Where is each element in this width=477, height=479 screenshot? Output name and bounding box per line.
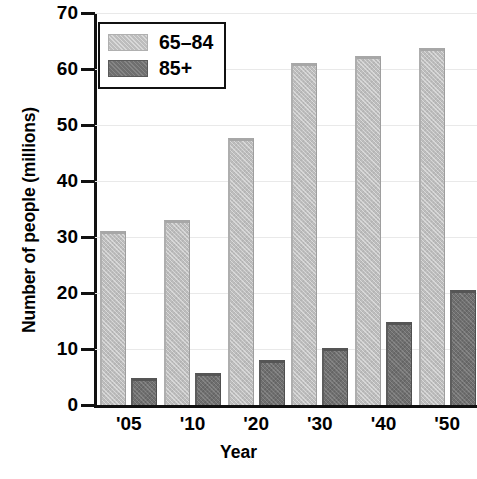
x-tick-label: '10 [180,413,206,435]
x-tick-label: '50 [434,413,460,435]
legend-item-85-plus: 85+ [108,57,213,80]
y-tick-mark [81,180,95,183]
bar-50-series-2 [450,290,476,405]
y-tick-mark [81,236,95,239]
y-tick-label: 10 [57,338,78,360]
bar-10-series-1 [164,220,190,405]
bar-40-series-2 [386,322,412,405]
x-tick-label: '30 [307,413,333,435]
bar-20-series-2 [259,360,285,405]
y-tick-label: 30 [57,226,78,248]
x-axis-line [94,405,477,408]
y-tick-label: 40 [57,170,78,192]
y-tick-label: 70 [57,2,78,24]
bar-30-series-1 [291,63,317,405]
legend-item-65-84: 65–84 [108,31,213,54]
bar-20-series-1 [228,138,254,405]
y-tick-mark [81,68,95,71]
y-tick-mark [81,348,95,351]
x-axis-title: Year [0,442,477,463]
y-tick-mark [81,124,95,127]
bar-10-series-2 [195,373,221,405]
legend-swatch-65-84 [108,34,148,51]
legend: 65–84 85+ [98,22,226,89]
legend-swatch-85-plus [108,60,148,77]
x-tick-label: '05 [116,413,142,435]
bar-30-series-2 [322,348,348,405]
y-tick-mark [81,12,95,15]
legend-label-65-84: 65–84 [159,33,213,53]
y-tick-label: 50 [57,114,78,136]
bar-05-series-1 [100,231,126,405]
bar-05-series-2 [131,378,157,405]
bar-chart: Number of people (millions) 010203040506… [0,0,477,479]
y-tick-mark [81,404,95,407]
x-tick-label: '20 [243,413,269,435]
y-tick-mark [81,292,95,295]
y-tick-label: 60 [57,58,78,80]
gridline [95,13,477,14]
y-tick-label: 20 [57,282,78,304]
y-axis-title: Number of people (millions) [18,50,40,390]
x-tick-label: '40 [371,413,397,435]
y-tick-label: 0 [67,394,78,416]
bar-40-series-1 [355,56,381,405]
legend-label-85-plus: 85+ [159,59,192,79]
bar-50-series-1 [419,48,445,405]
